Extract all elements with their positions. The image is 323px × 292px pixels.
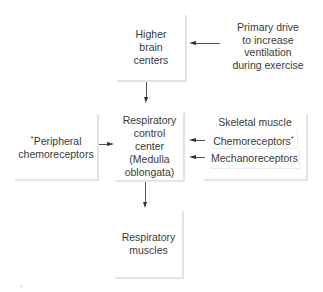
higher-brain-centers-box: Higher brain centers [117,15,187,82]
higher-brain-line-1: Higher [136,28,167,41]
muscles-line-1: Respiratory [122,231,176,244]
higher-brain-line-2: brain [139,41,162,54]
footnote-mark: * [20,283,23,292]
control-line-4: (Medulla [129,153,169,166]
respiratory-control-center-box: Respiratory control center (Medulla oblo… [116,112,185,182]
primary-drive-line-3: ventilation [218,46,318,59]
control-line-3: center [135,140,164,153]
peripheral-line-1: *Peripheral [31,132,82,148]
muscles-line-2: muscles [129,244,168,257]
primary-drive-line-1: Primary drive [218,21,318,34]
mechanoreceptors-label: Mechanoreceptors [211,152,298,164]
control-line-1: Respiratory [123,114,177,127]
respiratory-muscles-box: Respiratory muscles [115,211,184,279]
chemoreceptors-box: Chemoreceptors* [210,130,298,149]
primary-drive-line-4: during exercise [218,59,318,72]
control-line-5: oblongata) [125,166,175,179]
mechanoreceptors-box: Mechanoreceptors [210,150,300,169]
peripheral-chemoreceptors-box: *Peripheral chemoreceptors [15,114,99,181]
chemoreceptors-asterisk: * [291,134,294,143]
primary-drive-line-2: to increase [218,34,318,47]
skeletal-muscle-title: Skeletal muscle [218,116,292,129]
chemoreceptors-label: Chemoreceptors [213,135,291,147]
primary-drive-label: Primary drive to increase ventilation du… [218,21,318,71]
control-line-2: control [134,127,166,140]
peripheral-line-2: chemoreceptors [18,148,93,161]
higher-brain-line-3: centers [134,54,168,67]
